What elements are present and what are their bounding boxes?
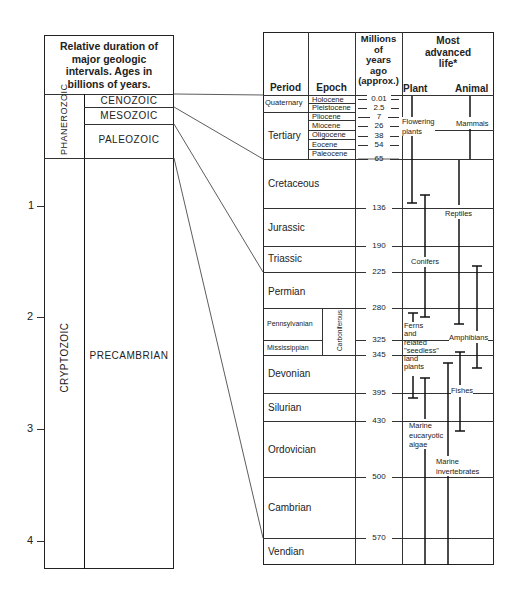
life-ferns: Ferns and related "seedless" land plants bbox=[404, 322, 439, 372]
life-marine-algae: Marine eucaryotic algae bbox=[409, 421, 443, 450]
life-fishes: Fishes bbox=[451, 386, 473, 396]
label-line: invertebrates bbox=[436, 467, 479, 477]
life-reptiles: Reptiles bbox=[445, 209, 472, 219]
label-line: plants bbox=[402, 127, 435, 137]
label-line: Marine bbox=[436, 457, 479, 467]
life-conifers: Conifers bbox=[410, 257, 440, 267]
life-mammals: Mammals bbox=[454, 119, 491, 129]
label-line: Flowering bbox=[402, 117, 435, 127]
label-line: algae bbox=[409, 440, 443, 450]
label-line: eucaryotic bbox=[409, 431, 443, 441]
label-line: plants bbox=[404, 363, 439, 371]
life-range-bars bbox=[0, 0, 519, 602]
life-flowering-plants: Flowering plants bbox=[402, 117, 435, 136]
life-amphibians: Amphibians bbox=[449, 333, 488, 343]
label-line: Marine bbox=[409, 421, 443, 431]
life-marine-invertebrates: Marine invertebrates bbox=[436, 457, 479, 476]
